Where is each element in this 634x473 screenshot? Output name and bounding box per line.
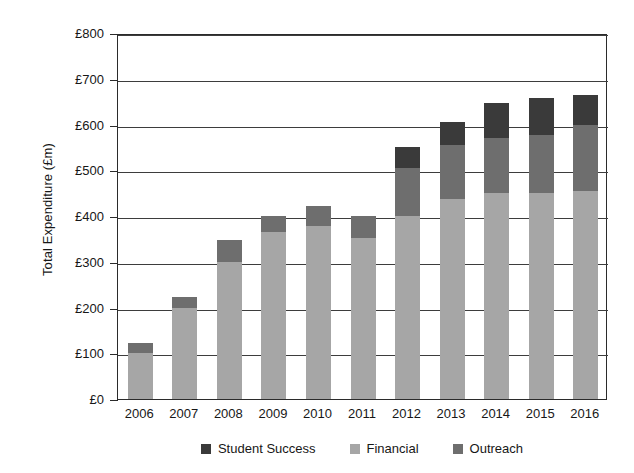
y-axis-label: £500 [0,163,104,178]
y-axis-label: £800 [0,26,104,41]
stacked-bar-chart: Total Expenditure (£m) £0£100£200£300£40… [0,0,634,473]
legend-swatch-icon [350,444,360,454]
bar-segment-financial [172,308,197,400]
legend-item-outreach[interactable]: Outreach [453,441,523,456]
bar-segment-financial [395,216,420,399]
bar-segment-financial [217,262,242,399]
bar-segment-student-success [484,103,509,139]
bar-segment-outreach [440,145,465,199]
bar-2009 [261,216,286,399]
legend-item-student-success[interactable]: Student Success [201,441,316,456]
bar-2011 [351,216,376,399]
bar-segment-outreach [351,216,376,238]
bar-segment-financial [573,191,598,399]
x-axis-label-2016: 2016 [557,406,613,421]
y-axis-label: £600 [0,118,104,133]
bar-segment-outreach [484,138,509,193]
bar-segment-financial [261,232,286,399]
gridline [118,81,608,82]
bar-2006 [128,343,153,399]
y-axis-label: £700 [0,72,104,87]
bar-2014 [484,103,509,399]
bar-2013 [440,122,465,399]
y-axis-label: £0 [0,392,104,407]
legend-swatch-icon [201,444,211,454]
bar-2007 [172,297,197,399]
bar-segment-student-success [573,95,598,126]
bar-segment-financial [351,238,376,399]
legend-swatch-icon [453,444,463,454]
plot-area [117,34,607,400]
bar-2010 [306,206,331,399]
y-axis-tick [110,400,118,401]
bar-segment-outreach [261,216,286,232]
bar-segment-student-success [395,147,420,168]
bar-segment-outreach [573,125,598,190]
gridline [118,35,608,36]
bar-segment-financial [484,193,509,399]
bar-2008 [217,240,242,399]
bar-2015 [529,98,554,399]
bar-segment-financial [306,226,331,399]
legend-label: Financial [367,441,419,456]
chart-legend: Student SuccessFinancialOutreach [117,441,607,456]
y-axis-label: £300 [0,255,104,270]
bar-segment-financial [529,193,554,399]
bar-2016 [573,95,598,399]
bar-segment-outreach [395,168,420,216]
y-axis-label: £200 [0,301,104,316]
bar-segment-student-success [440,122,465,144]
y-axis-label: £100 [0,346,104,361]
legend-label: Student Success [218,441,316,456]
bar-segment-outreach [172,297,197,307]
bar-segment-financial [440,199,465,399]
legend-label: Outreach [470,441,523,456]
y-axis-label: £400 [0,209,104,224]
legend-item-financial[interactable]: Financial [350,441,419,456]
bar-segment-outreach [128,343,153,353]
bar-2012 [395,147,420,399]
bar-segment-outreach [306,206,331,226]
bar-segment-outreach [217,240,242,262]
bar-segment-student-success [529,98,554,135]
bar-segment-financial [128,353,153,399]
bar-segment-outreach [529,135,554,194]
